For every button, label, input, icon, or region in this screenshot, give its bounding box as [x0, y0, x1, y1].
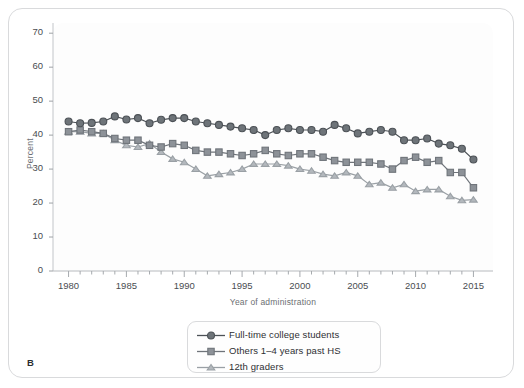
legend-marker-triangle-icon — [196, 360, 226, 373]
legend-marker-square-icon — [196, 344, 226, 357]
legend-item-label: 12th graders — [229, 361, 284, 372]
x-tick-label: 1980 — [49, 280, 89, 291]
legend-item-triangle: 12th graders — [196, 359, 380, 374]
y-tick-label: 0 — [17, 264, 43, 275]
x-tick-label: 1985 — [106, 280, 146, 291]
panel-label: B — [27, 357, 34, 368]
y-tick-label: 70 — [17, 26, 43, 37]
x-tick-label: 1995 — [222, 280, 262, 291]
x-tick-label: 2015 — [453, 280, 493, 291]
legend-item-label: Full-time college students — [229, 329, 339, 340]
legend-item-label: Others 1–4 years past HS — [229, 345, 341, 356]
x-tick-label: 2010 — [396, 280, 436, 291]
y-tick-label: 20 — [17, 196, 43, 207]
y-tick-label: 60 — [17, 60, 43, 71]
y-tick-label: 50 — [17, 94, 43, 105]
figure-container: Percent 010203040506070 1980198519901995… — [8, 8, 514, 378]
legend-item-square: Others 1–4 years past HS — [196, 343, 380, 358]
x-tick-label: 2005 — [338, 280, 378, 291]
x-tick-label: 1990 — [164, 280, 204, 291]
legend-item-circle: Full-time college students — [196, 327, 380, 342]
y-tick-label: 10 — [17, 230, 43, 241]
chart-legend: Full-time college studentsOthers 1–4 yea… — [187, 321, 381, 373]
y-tick-label: 40 — [17, 128, 43, 139]
x-tick-label: 2000 — [280, 280, 320, 291]
y-tick-label: 30 — [17, 162, 43, 173]
legend-marker-circle-icon — [196, 328, 226, 341]
x-axis-title: Year of administration — [53, 297, 493, 307]
